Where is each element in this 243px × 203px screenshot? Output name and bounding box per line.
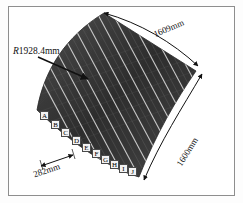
point-marker-f: F (92, 149, 101, 158)
point-marker-d: D (72, 136, 81, 145)
point-marker-e: E (82, 143, 91, 152)
point-marker-j: J (128, 167, 137, 176)
point-marker-a: A (40, 111, 49, 120)
radius-dimension-label: R1928.4mm (13, 46, 60, 56)
point-marker-c: C (61, 128, 70, 137)
figure-container: R1928.4mm 1609mm 1600mm 282mm A B C D E … (0, 0, 243, 203)
radius-value: 1928.4mm (19, 46, 60, 56)
point-marker-i: I (119, 164, 128, 173)
point-marker-h: H (110, 160, 119, 169)
point-marker-b: B (51, 120, 60, 129)
point-marker-g: G (101, 155, 110, 164)
